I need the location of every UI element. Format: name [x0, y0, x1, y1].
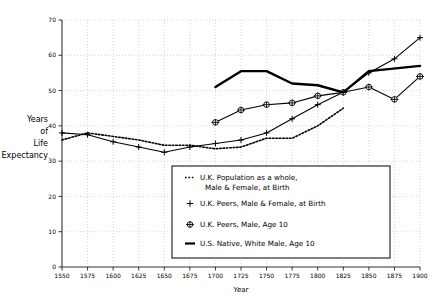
y-axis-title-line: Years: [26, 115, 48, 124]
legend-label: U.S. Native, White Male, Age 10: [200, 239, 315, 248]
x-tick-label: 1900: [412, 272, 427, 279]
x-axis-title: Year: [233, 286, 249, 294]
x-tick-label: 1825: [336, 272, 351, 279]
legend-label: U.K. Peers, Male & Female, at Birth: [200, 199, 326, 208]
x-axis-label: Year: [233, 286, 249, 294]
x-tick-label: 1550: [54, 272, 69, 279]
y-tick-label: 0: [52, 263, 56, 270]
chart-container: 0102030405060701550157516001625165016751…: [0, 0, 436, 305]
legend: U.K. Population as a whole,Male & Female…: [172, 166, 390, 258]
x-tick-label: 1575: [80, 272, 95, 279]
y-tick-label: 10: [48, 228, 56, 235]
x-tick-label: 1725: [233, 272, 248, 279]
y-tick-label: 20: [48, 193, 56, 200]
y-axis-title-line: of: [40, 127, 48, 136]
y-tick-label: 40: [48, 122, 56, 129]
x-tick-label: 1700: [208, 272, 223, 279]
y-tick-label: 60: [48, 51, 56, 58]
life-expectancy-line-chart: 0102030405060701550157516001625165016751…: [0, 0, 436, 305]
x-tick-label: 1775: [285, 272, 300, 279]
x-tick-label: 1675: [182, 272, 197, 279]
x-tick-label: 1875: [387, 272, 402, 279]
series-line: [62, 38, 420, 153]
x-tick-label: 1600: [106, 272, 121, 279]
y-tick-label: 30: [48, 157, 56, 164]
series-2: [211, 73, 424, 125]
data-series: [59, 35, 424, 156]
y-axis-title-line: Life: [34, 139, 48, 148]
x-tick-label: 1800: [310, 272, 325, 279]
x-tick-label: 1850: [361, 272, 376, 279]
y-tick-label: 50: [48, 87, 56, 94]
legend-label-continued: Male & Female, at Birth: [205, 183, 290, 192]
x-tick-label: 1750: [259, 272, 274, 279]
y-axis-label: YearsofLifeExpectancy: [2, 115, 49, 160]
x-tick-label: 1650: [157, 272, 172, 279]
y-axis-title-line: Expectancy: [2, 151, 49, 160]
legend-label: U.K. Population as a whole,: [200, 173, 298, 182]
legend-label: U.K. Peers, Male, Age 10: [200, 220, 288, 229]
x-tick-label: 1625: [131, 272, 146, 279]
y-tick-label: 70: [48, 16, 56, 23]
series-line: [215, 66, 420, 92]
series-3: [215, 66, 420, 92]
